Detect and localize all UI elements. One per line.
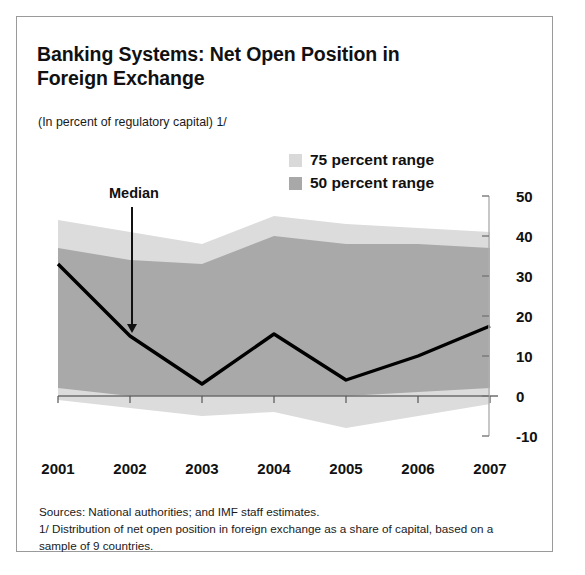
x-axis-tick-label: 2002: [113, 460, 146, 477]
y-axis-tick-label: 40: [516, 228, 533, 245]
y-axis-tick-label: 0: [516, 388, 524, 405]
x-axis-tick-label: 2001: [41, 460, 74, 477]
x-axis-tick-label: 2005: [329, 460, 362, 477]
note-sources: Sources: National authorities; and IMF s…: [39, 504, 519, 521]
x-axis-tick-label: 2007: [473, 460, 506, 477]
chart-frame: Banking Systems: Net Open Position in Fo…: [16, 16, 553, 552]
y-axis-tick-label: 50: [516, 188, 533, 205]
y-axis-labels: -1001020304050: [506, 197, 554, 467]
x-axis-tick-label: 2006: [401, 460, 434, 477]
y-axis-tick-label: 10: [516, 348, 533, 365]
y-axis-tick-label: -10: [516, 428, 538, 445]
y-axis-tick-label: 20: [516, 308, 533, 325]
x-axis-tick-label: 2004: [257, 460, 290, 477]
x-axis-tick-label: 2003: [185, 460, 218, 477]
band-50-percent-range: [58, 236, 490, 396]
note-footnote: 1/ Distribution of net open position in …: [39, 521, 519, 555]
x-axis-labels: 2001200220032004200520062007: [17, 460, 554, 482]
chart-notes: Sources: National authorities; and IMF s…: [39, 504, 519, 555]
y-axis-tick-label: 30: [516, 268, 533, 285]
